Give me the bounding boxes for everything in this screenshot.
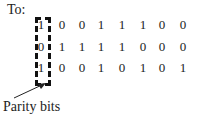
parity-bits-label: Parity bits xyxy=(3,99,60,115)
